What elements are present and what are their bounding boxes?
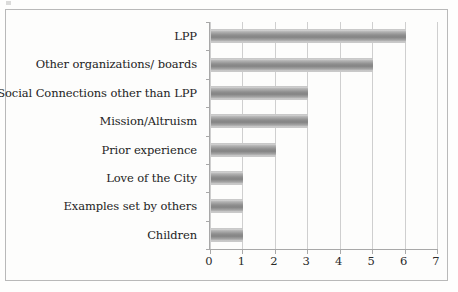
gridline: [210, 22, 211, 249]
category-label: Mission/Altruism: [99, 107, 197, 135]
category-label: Love of the City: [106, 164, 197, 192]
value-axis-tick-label: 4: [328, 254, 350, 268]
value-axis-tick-label: 1: [230, 254, 252, 268]
category-axis-tick: [206, 79, 210, 80]
gridline: [437, 22, 438, 249]
value-axis-tick-label: 2: [263, 254, 285, 268]
category-axis-tick: [206, 136, 210, 137]
gridline: [307, 22, 308, 249]
value-axis-tick-label: 3: [295, 254, 317, 268]
chart-screenshot: LPPOther organizations/ boardsSocial Con…: [0, 0, 458, 292]
bar: [211, 199, 243, 213]
category-label: Examples set by others: [64, 192, 198, 220]
category-label: Other organizations/ boards: [36, 50, 197, 78]
category-label: Social Connections other than LPP: [0, 79, 197, 107]
plot-area: [209, 22, 437, 250]
scan-artifact-speck: [6, 1, 11, 5]
category-label: Children: [147, 221, 197, 249]
category-axis-tick: [206, 107, 210, 108]
category-axis-tick: [206, 50, 210, 51]
value-axis-tick-label: 5: [360, 254, 382, 268]
value-axis-tick-label: 6: [393, 254, 415, 268]
category-axis-tick: [206, 22, 210, 23]
value-axis-tick-label: 7: [425, 254, 447, 268]
bar: [211, 228, 243, 242]
value-axis-tick-label: 0: [198, 254, 220, 268]
bar: [211, 29, 406, 43]
category-axis-tick: [206, 221, 210, 222]
category-label: Prior experience: [102, 136, 197, 164]
category-axis-labels: LPPOther organizations/ boardsSocial Con…: [6, 22, 203, 249]
bar: [211, 114, 308, 128]
chart-frame: LPPOther organizations/ boardsSocial Con…: [5, 9, 448, 281]
gridline: [275, 22, 276, 249]
gridline: [340, 22, 341, 249]
bar: [211, 171, 243, 185]
bar: [211, 86, 308, 100]
bar: [211, 143, 276, 157]
bar: [211, 58, 373, 72]
category-axis-tick: [206, 164, 210, 165]
category-label: LPP: [174, 22, 197, 50]
gridline: [372, 22, 373, 249]
gridline: [242, 22, 243, 249]
gridline: [405, 22, 406, 249]
value-axis-labels: 01234567: [209, 254, 444, 274]
category-axis-tick: [206, 192, 210, 193]
